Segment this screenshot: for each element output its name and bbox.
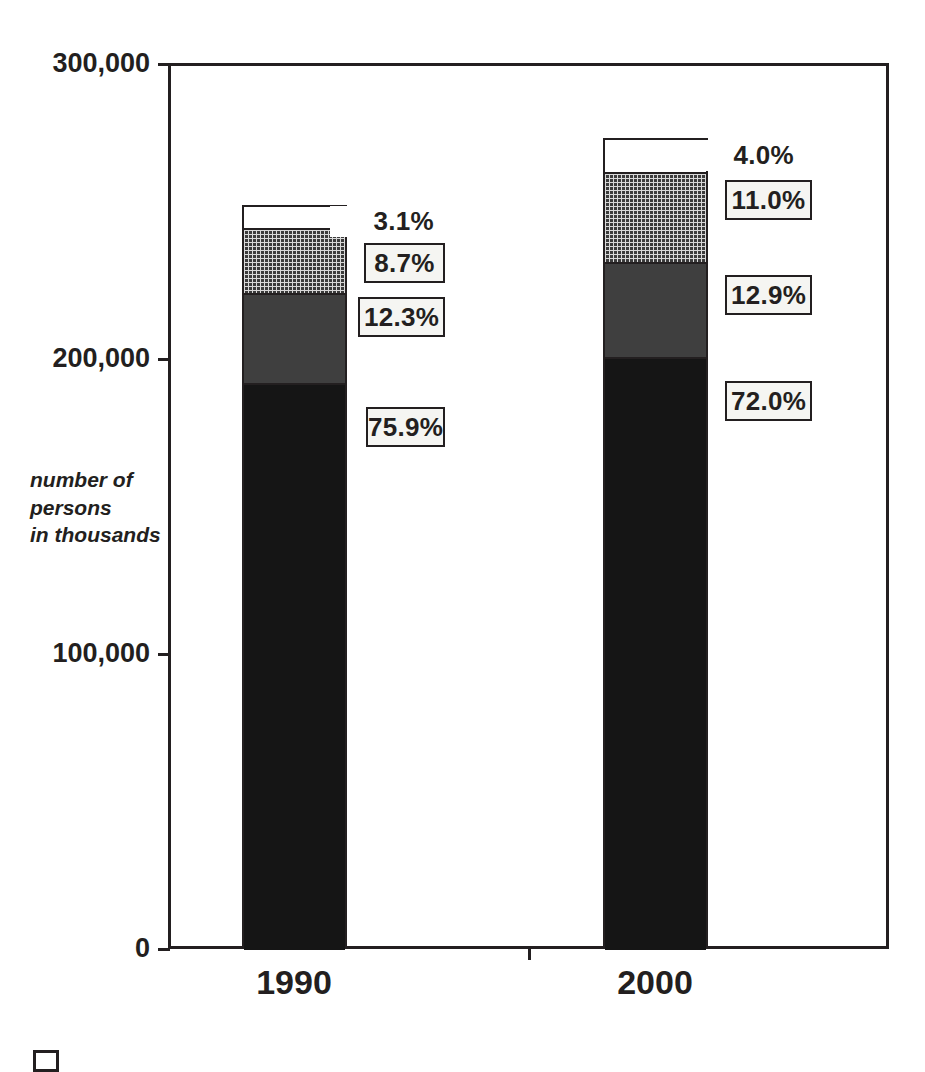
- bar-2000-segment-black: [605, 359, 706, 950]
- data-label-1990-gray: 12.3%: [358, 297, 445, 337]
- data-label-1990-black: 75.9%: [366, 407, 445, 447]
- bar-1990-segment-dotted: [244, 230, 345, 295]
- bar-1990-segment-gray: [244, 295, 345, 385]
- bar-2000[interactable]: [603, 138, 708, 948]
- data-label-1990-dotted: 8.7%: [364, 243, 445, 283]
- y-axis-caption-line-2: persons: [30, 494, 170, 522]
- x-axis-label-2000: 2000: [555, 963, 755, 1002]
- bar-1990-segment-black: [244, 385, 345, 950]
- y-axis-label-0: 0: [0, 933, 150, 964]
- y-axis-tick-0: [158, 948, 170, 951]
- data-label-2000-dotted: 11.0%: [725, 180, 812, 220]
- y-axis-tick-100000: [158, 653, 170, 656]
- data-label-1990-white: 3.1%: [330, 206, 440, 237]
- y-axis-caption-line-3: in thousands: [30, 521, 170, 549]
- y-axis-label-100000: 100,000: [0, 638, 150, 669]
- x-axis-label-1990: 1990: [194, 963, 394, 1002]
- y-axis-label-300000: 300,000: [0, 48, 150, 79]
- data-label-2000-gray: 12.9%: [725, 275, 812, 315]
- bar-2000-segment-gray: [605, 264, 706, 359]
- legend-swatch-white: [33, 1050, 59, 1072]
- y-axis-label-200000: 200,000: [0, 343, 150, 374]
- y-axis-tick-300000: [158, 63, 170, 66]
- y-axis-caption: number of persons in thousands: [30, 466, 170, 549]
- data-label-2000-white: 4.0%: [690, 140, 800, 171]
- bar-2000-segment-dotted: [605, 174, 706, 264]
- y-axis-caption-line-1: number of: [30, 466, 170, 494]
- data-label-2000-black: 72.0%: [725, 381, 812, 421]
- bar-1990[interactable]: [242, 205, 347, 948]
- x-axis-tick-center: [528, 948, 531, 960]
- y-axis-tick-200000: [158, 358, 170, 361]
